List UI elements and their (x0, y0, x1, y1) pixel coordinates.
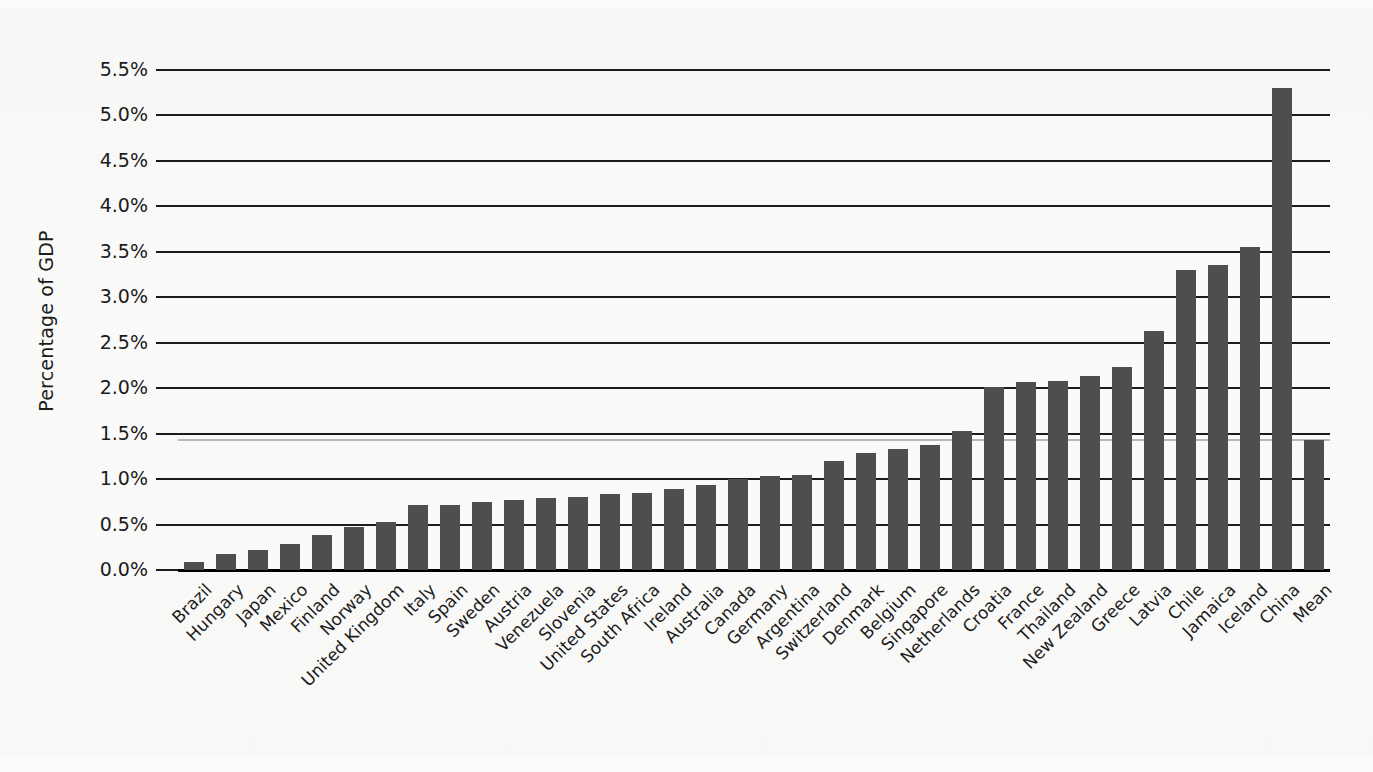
bar[interactable] (824, 461, 844, 570)
bar[interactable] (536, 498, 556, 570)
bar-chart: Percentage of GDP 0.0%0.5%1.0%1.5%2.0%2.… (0, 0, 1373, 772)
bar[interactable] (856, 453, 876, 570)
y-axis-tick-mark (156, 296, 178, 298)
bar[interactable] (184, 562, 204, 570)
y-axis-tick-mark (156, 69, 178, 71)
bar[interactable] (568, 497, 588, 570)
bar[interactable] (472, 502, 492, 570)
bar[interactable] (1080, 376, 1100, 570)
bar[interactable] (1176, 270, 1196, 570)
y-axis-tick-mark (156, 205, 178, 207)
y-axis-tick-label: 1.0% (80, 469, 148, 488)
y-axis-tick-label: 3.5% (80, 242, 148, 261)
bar[interactable] (1016, 382, 1036, 570)
bar[interactable] (1208, 265, 1228, 570)
bar[interactable] (408, 505, 428, 570)
bar[interactable] (728, 479, 748, 570)
bar-series (178, 70, 1330, 570)
bar[interactable] (440, 505, 460, 570)
bar[interactable] (952, 431, 972, 570)
bar[interactable] (504, 500, 524, 570)
y-axis-tick-label: 4.0% (80, 196, 148, 215)
y-axis-tick-mark (156, 433, 178, 435)
y-axis-tick-label: 4.5% (80, 151, 148, 170)
y-axis-tick-label: 2.5% (80, 333, 148, 352)
y-axis-title: Percentage of GDP (35, 171, 57, 471)
y-axis-tick-mark (156, 160, 178, 162)
bar[interactable] (792, 475, 812, 570)
bar[interactable] (888, 449, 908, 570)
bar[interactable] (1112, 367, 1132, 570)
x-axis-tick-labels: BrazilHungaryJapanMexicoFinlandNorwayUni… (178, 575, 1330, 755)
bar[interactable] (312, 535, 332, 570)
bar[interactable] (1144, 331, 1164, 570)
y-axis-tick-mark (156, 524, 178, 526)
y-axis-tick-label: 3.0% (80, 287, 148, 306)
y-axis-tick-label: 0.0% (80, 560, 148, 579)
y-axis-tick-mark (156, 569, 178, 571)
y-axis-tick-mark (156, 342, 178, 344)
y-axis-tick-label: 0.5% (80, 515, 148, 534)
bar[interactable] (1304, 440, 1324, 570)
y-axis-tick-label: 5.5% (80, 60, 148, 79)
bar[interactable] (984, 387, 1004, 570)
bar[interactable] (600, 494, 620, 570)
bar[interactable] (280, 544, 300, 570)
bar[interactable] (216, 554, 236, 570)
y-axis-tick-mark (156, 478, 178, 480)
bar[interactable] (376, 522, 396, 570)
bar[interactable] (760, 476, 780, 570)
bar[interactable] (632, 493, 652, 570)
bar[interactable] (696, 485, 716, 570)
y-axis-tick-label: 1.5% (80, 424, 148, 443)
y-axis-tick-label: 5.0% (80, 105, 148, 124)
bar[interactable] (1240, 247, 1260, 570)
chart-page: Percentage of GDP 0.0%0.5%1.0%1.5%2.0%2.… (0, 0, 1373, 772)
bar[interactable] (1272, 88, 1292, 570)
bar[interactable] (664, 489, 684, 570)
bar[interactable] (920, 445, 940, 570)
bar[interactable] (344, 527, 364, 570)
bar[interactable] (1048, 381, 1068, 570)
y-axis-tick-mark (156, 114, 178, 116)
y-axis-tick-mark (156, 387, 178, 389)
plot-area (178, 70, 1330, 570)
y-axis-tick-label: 2.0% (80, 378, 148, 397)
bar[interactable] (248, 550, 268, 570)
y-axis-tick-mark (156, 251, 178, 253)
